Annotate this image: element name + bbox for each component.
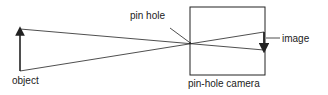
pinhole-label: pin hole [130,10,165,21]
pinhole-point [189,42,191,44]
ray-bottom [20,32,264,71]
object-label: object [12,75,39,86]
image-label: image [282,33,310,44]
pinhole-leader [170,28,189,42]
camera-box [190,7,265,75]
ray-top [20,29,264,50]
pinhole-camera-diagram: pin hole image object pin-hole camera [0,0,328,95]
camera-label: pin-hole camera [188,78,260,89]
